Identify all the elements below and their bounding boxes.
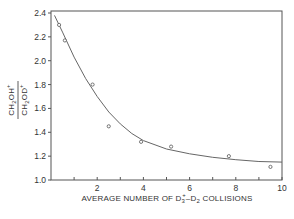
data-point — [107, 125, 110, 128]
y-tick-label: 1.2 — [34, 151, 46, 161]
x-tick-label: 2 — [95, 183, 100, 193]
data-point — [63, 39, 66, 42]
x-tick-label: 6 — [187, 183, 192, 193]
data-point — [170, 145, 173, 148]
plot-frame — [51, 11, 282, 180]
y-axis: 1.01.21.41.61.82.02.22.4 — [34, 8, 51, 185]
x-tick-label: 10 — [277, 183, 287, 193]
data-point — [269, 165, 272, 168]
data-point — [227, 155, 230, 158]
y-tick-label: 1.4 — [34, 127, 46, 137]
y-tick-label: 1.6 — [34, 103, 46, 113]
x-tick-label: 8 — [233, 183, 238, 193]
y-tick-label: 2.0 — [34, 56, 46, 66]
y-axis-title: CH2OH+ CH2OD+ — [5, 81, 30, 119]
svg-text:CH2OH+: CH2OH+ — [5, 84, 17, 116]
data-point — [139, 140, 142, 143]
y-tick-label: 2.4 — [34, 8, 46, 18]
y-tick-label: 1.0 — [34, 175, 46, 185]
y-tick-label: 1.8 — [34, 80, 46, 90]
y-tick-label: 2.2 — [34, 32, 46, 42]
fit-curve — [55, 15, 283, 162]
data-point — [57, 23, 60, 26]
svg-text:CH2OD+: CH2OD+ — [18, 84, 30, 116]
x-axis-title: AVERAGE NUMBER OF D3+–D2 COLLISIONS — [81, 192, 252, 204]
x-axis: 246810 — [74, 177, 287, 193]
data-points — [57, 23, 272, 168]
data-point — [91, 83, 94, 86]
x-tick-label: 4 — [141, 183, 146, 193]
chart: 1.01.21.41.61.82.02.22.4 246810 AVERAGE … — [0, 0, 294, 219]
